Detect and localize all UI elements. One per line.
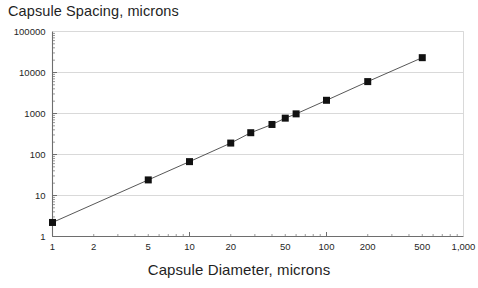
y-tick-label: 1000 bbox=[24, 108, 45, 119]
data-point-marker-0 bbox=[49, 219, 56, 226]
x-tick-label: 1,000 bbox=[452, 241, 476, 252]
axis-lines bbox=[53, 32, 464, 237]
data-point-marker-1 bbox=[145, 176, 152, 183]
y-tick-label: 100 bbox=[30, 149, 46, 160]
y-tick-label: 1 bbox=[40, 231, 45, 242]
data-point-marker-3 bbox=[227, 140, 234, 147]
x-tick-label: 100 bbox=[319, 241, 335, 252]
data-point-marker-9 bbox=[364, 78, 371, 85]
x-tick-label: 200 bbox=[360, 241, 376, 252]
data-point-marker-6 bbox=[282, 115, 289, 122]
data-point-marker-5 bbox=[268, 121, 275, 128]
data-point-marker-4 bbox=[247, 129, 254, 136]
x-axis-tick-labels: 1251020501002005001,000 bbox=[50, 241, 476, 252]
grid-lines bbox=[53, 32, 464, 196]
x-tick-label: 5 bbox=[146, 241, 151, 252]
y-tick-label: 10000 bbox=[19, 67, 45, 78]
x-axis-ticks bbox=[53, 232, 464, 237]
x-tick-label: 20 bbox=[225, 241, 236, 252]
chart-container: Capsule Spacing, microns 110100100010000… bbox=[0, 0, 478, 288]
x-tick-label: 50 bbox=[280, 241, 291, 252]
y-axis-tick-labels: 110100100010000100000 bbox=[14, 26, 46, 242]
x-tick-label: 1 bbox=[50, 241, 55, 252]
data-point-marker-8 bbox=[323, 97, 330, 104]
x-axis-title: Capsule Diameter, microns bbox=[0, 261, 478, 279]
y-axis-ticks bbox=[53, 32, 58, 237]
data-point-marker-7 bbox=[293, 110, 300, 117]
data-point-marker-2 bbox=[186, 158, 193, 165]
data-point-marker-10 bbox=[419, 54, 426, 61]
x-tick-label: 10 bbox=[184, 241, 195, 252]
y-tick-label: 10 bbox=[35, 190, 46, 201]
y-tick-label: 100000 bbox=[14, 26, 46, 37]
x-tick-label: 2 bbox=[91, 241, 96, 252]
chart-plot-area: 110100100010000100000 125102050100200500… bbox=[0, 0, 478, 288]
x-tick-label: 500 bbox=[414, 241, 430, 252]
